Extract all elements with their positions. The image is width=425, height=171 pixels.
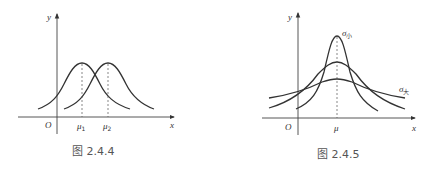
- mu1-label: μ1: [76, 121, 86, 132]
- mu2-label: μ2: [102, 121, 112, 132]
- caption: 图 2.4.4: [72, 145, 115, 158]
- origin-label: O: [285, 122, 292, 132]
- mu-label: μ: [333, 123, 339, 133]
- sigma-small-label: σ小: [342, 28, 352, 40]
- curve-mu2: [64, 63, 154, 109]
- figure-2-4-5: y x O μ σ小 σ大 图 2.4.5: [262, 12, 416, 161]
- sigma-large-label: σ大: [399, 84, 409, 96]
- y-label: y: [287, 12, 292, 22]
- y-label: y: [46, 12, 51, 22]
- caption: 图 2.4.5: [317, 148, 360, 161]
- origin-label: O: [45, 120, 52, 130]
- figures-canvas: y x O μ1 μ2 图 2.4.4 y x O μ σ小 σ大 图 2.4.…: [0, 0, 425, 171]
- x-label: x: [411, 123, 416, 133]
- x-label: x: [169, 120, 174, 130]
- figure-2-4-4: y x O μ1 μ2 图 2.4.4: [18, 12, 174, 158]
- curve-mu1: [38, 63, 130, 109]
